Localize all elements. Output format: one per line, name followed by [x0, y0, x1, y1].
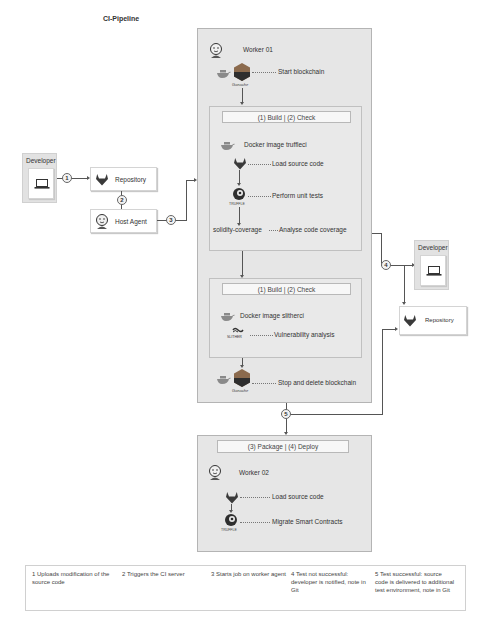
diagram-title: CI-Pipeline [103, 15, 139, 22]
worker02-container: (3) Package | (4) Deploy Worker 02 Load … [197, 435, 372, 552]
legend-item-3: 3 Starts job on worker agent [211, 570, 291, 610]
arrow-4-v2 [404, 265, 405, 303]
connector-vuln [250, 335, 273, 336]
coverage-tool-label: solidity-coverage [213, 226, 262, 233]
docker-icon [221, 141, 235, 150]
jenkins-icon [95, 213, 109, 230]
stage2-box: (1) Build | (2) Check Docker image slith… [209, 278, 362, 358]
truffle-icon [232, 187, 246, 201]
connector-start-blockchain [252, 72, 276, 73]
repository-left-label: Repository [115, 176, 146, 183]
truffle-label: TRUFFLE [229, 202, 245, 206]
vuln-analysis-label: Vulnerability analysis [274, 331, 334, 338]
ganache-label: Ganache [232, 82, 248, 87]
ganache-icon [233, 368, 251, 388]
step-3-badge: 3 [166, 215, 176, 225]
worker01-container: Worker 01 Ganache Start blockchain (1) B… [197, 28, 372, 403]
arrow-to-stage2 [242, 251, 243, 276]
ganache-icon [233, 62, 251, 82]
connector-load-source-2 [240, 497, 270, 498]
truffle-icon [224, 513, 238, 527]
legend-item-4: 4 Test not successful: developer is noti… [291, 570, 375, 610]
legend-item-1: 1 Uploads modification of the source cod… [32, 570, 122, 610]
slither-icon [232, 327, 244, 333]
arrow-to-truffle [239, 170, 240, 184]
laptop-icon [34, 178, 50, 190]
docker-icon [217, 69, 231, 78]
connector-coverage [269, 230, 278, 231]
repository-right-box[interactable]: Repository [399, 306, 467, 335]
stop-blockchain-label: Stop and delete blockchain [278, 379, 356, 386]
arrow-5-h2 [382, 329, 396, 330]
worker02-load-source: Load source code [272, 493, 324, 500]
step-1-badge: 1 [62, 173, 72, 183]
docker-icon [217, 375, 231, 384]
arrow-4-head-repo [402, 302, 406, 305]
coverage-step-label: Analyse code coverage [279, 226, 347, 233]
connector-stop-blockchain [252, 383, 276, 384]
docker-image-slitherci: Docker image slitherci [240, 312, 304, 319]
docker-image-truffleci: Docker image truffleci [244, 141, 307, 148]
step-5-badge: 5 [281, 409, 291, 419]
arrow-3-v [186, 180, 187, 221]
developer-left-card [28, 168, 54, 199]
legend: 1 Uploads modification of the source cod… [25, 565, 466, 611]
arrow-to-stage1-head [240, 102, 244, 105]
gitlab-icon [403, 314, 417, 327]
arrow-5-head-repo [395, 327, 398, 331]
stage1-header: (1) Build | (2) Check [222, 111, 351, 123]
truffle-label: TRUFFLE [221, 528, 237, 532]
unit-tests-label: Perform unit tests [272, 192, 323, 199]
docker-icon [221, 312, 235, 321]
ganache-label: Ganache [232, 388, 248, 393]
worker02-label: Worker 02 [239, 469, 269, 476]
legend-item-5: 5 Test successful: source code is delive… [375, 570, 455, 610]
host-agent-box[interactable]: Host Agent [90, 209, 157, 233]
repository-right-label: Repository [425, 317, 454, 323]
legend-item-2: 2 Triggers the CI server [122, 570, 211, 610]
jenkins-icon [208, 464, 222, 481]
host-agent-label: Host Agent [115, 218, 147, 225]
arrow-5-v2 [382, 329, 383, 415]
jenkins-icon [209, 42, 223, 59]
gitlab-icon [225, 491, 239, 504]
migrate-label: Migrate Smart Contracts [272, 518, 342, 525]
slither-label: SLITHER [227, 335, 242, 339]
developer-left-label: Developer [26, 157, 56, 164]
gitlab-icon [233, 157, 247, 170]
developer-left-box: Developer [22, 153, 57, 203]
repository-left-box[interactable]: Repository [90, 167, 157, 191]
arrow-to-coverage [239, 207, 240, 224]
developer-right-box: Developer [414, 240, 449, 290]
step-2-badge: 2 [117, 195, 127, 205]
laptop-icon [426, 265, 442, 277]
arrow-to-truffle-head [237, 183, 241, 186]
arrow-to-stage1 [242, 88, 243, 103]
developer-right-card [420, 255, 446, 286]
stage2-header: (1) Build | (2) Check [222, 283, 351, 295]
gitlab-icon [95, 173, 109, 186]
step-4-badge: 4 [381, 260, 391, 270]
stage1-box: (1) Build | (2) Check Docker image truff… [209, 106, 362, 251]
worker01-label: Worker 01 [243, 46, 273, 53]
connector-load-source [248, 164, 271, 165]
worker02-header: (3) Package | (4) Deploy [217, 440, 349, 453]
connector-unit-tests [248, 196, 271, 197]
start-blockchain-label: Start blockchain [278, 68, 324, 75]
developer-right-label: Developer [418, 244, 448, 251]
connector-migrate [240, 522, 270, 523]
load-source-label: Load source code [272, 160, 324, 167]
arrow-5-h1 [286, 414, 382, 415]
